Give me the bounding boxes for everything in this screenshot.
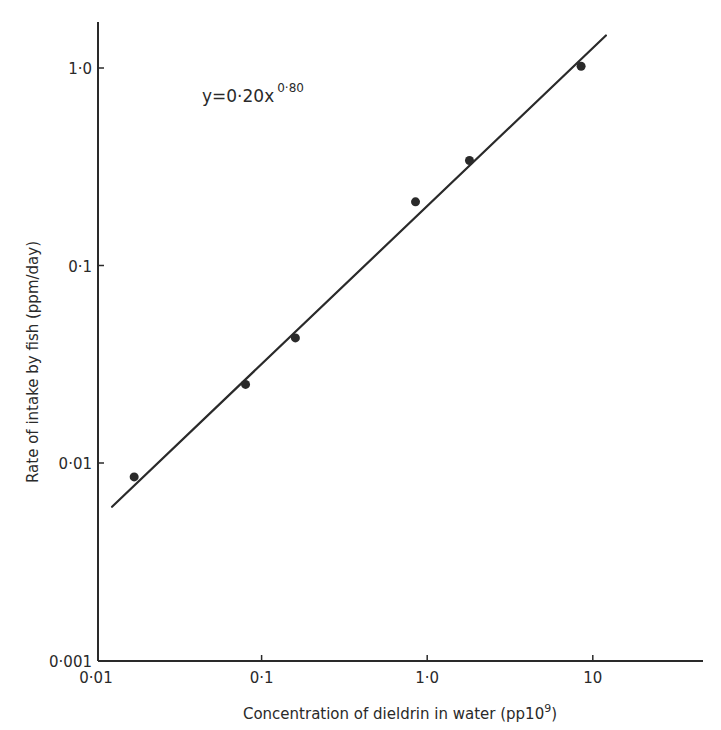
data-point <box>465 156 474 165</box>
regression-line <box>112 36 606 507</box>
x-ticks: 0·010·11·010 <box>79 655 602 687</box>
data-point <box>291 333 300 342</box>
x-tick-label: 0·01 <box>79 669 112 687</box>
y-tick-label: 0·1 <box>68 258 92 276</box>
y-axis-title: Rate of intake by fish (ppm/day) <box>24 241 42 483</box>
data-point <box>577 62 586 71</box>
x-tick-label: 0·1 <box>250 669 274 687</box>
y-ticks: 0·0010·010·11·0 <box>49 60 104 671</box>
x-tick-label: 10 <box>583 669 602 687</box>
x-tick-label: 1·0 <box>415 669 439 687</box>
axes <box>98 22 703 661</box>
x-axis-title: Concentration of dieldrin in water (pp10… <box>243 702 557 723</box>
data-point <box>241 380 250 389</box>
y-tick-label: 1·0 <box>68 60 92 78</box>
y-tick-label: 0·01 <box>59 455 92 473</box>
equation-annotation: y=0·20x0·80 <box>202 81 304 106</box>
y-tick-label: 0·001 <box>49 653 92 671</box>
data-point <box>411 197 420 206</box>
fit-line <box>112 36 606 507</box>
data-point <box>130 472 139 481</box>
log-log-chart: 0·010·11·010 0·0010·010·11·0 y=0·20x0·80… <box>0 0 721 730</box>
